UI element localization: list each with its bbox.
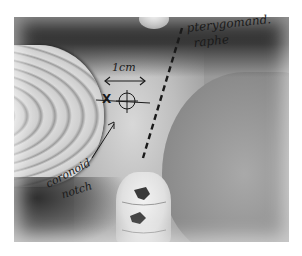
reference-x-mark: X <box>102 93 111 105</box>
target-crosshair-icon <box>116 90 138 113</box>
annotation-overlay <box>0 0 302 256</box>
raphe-label-line2: raphe <box>193 33 229 49</box>
coronoid-arrow <box>92 122 114 158</box>
scale-label: 1cm <box>112 62 136 73</box>
scale-arrow <box>105 77 145 85</box>
raphe-dashed-line <box>143 28 182 158</box>
